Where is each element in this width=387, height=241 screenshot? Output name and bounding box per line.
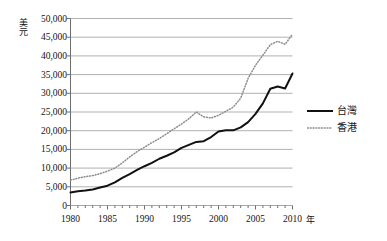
x-tick-label: 1985 — [98, 214, 117, 225]
gdp-per-capita-line-chart: 美元 05,00010,00015,00020,00025,00030,0003… — [0, 0, 387, 241]
x-tick-label: 2010 — [283, 214, 302, 225]
x-axis-title: 年 — [306, 215, 315, 226]
legend-label: 台灣 — [337, 105, 357, 116]
chart-legend: 台灣香港 — [307, 102, 385, 136]
x-tick-label: 1990 — [135, 214, 154, 225]
x-tick-label: 1980 — [61, 214, 80, 225]
dotted-line-icon — [307, 123, 333, 133]
x-tick-label: 2005 — [246, 214, 265, 225]
solid-line-icon — [307, 106, 333, 116]
x-tick-label: 2000 — [209, 214, 228, 225]
x-tick-label: 1995 — [172, 214, 191, 225]
legend-item-taiwan[interactable]: 台灣 — [307, 102, 385, 119]
legend-item-hongkong[interactable]: 香港 — [307, 119, 385, 136]
legend-label: 香港 — [337, 122, 357, 133]
